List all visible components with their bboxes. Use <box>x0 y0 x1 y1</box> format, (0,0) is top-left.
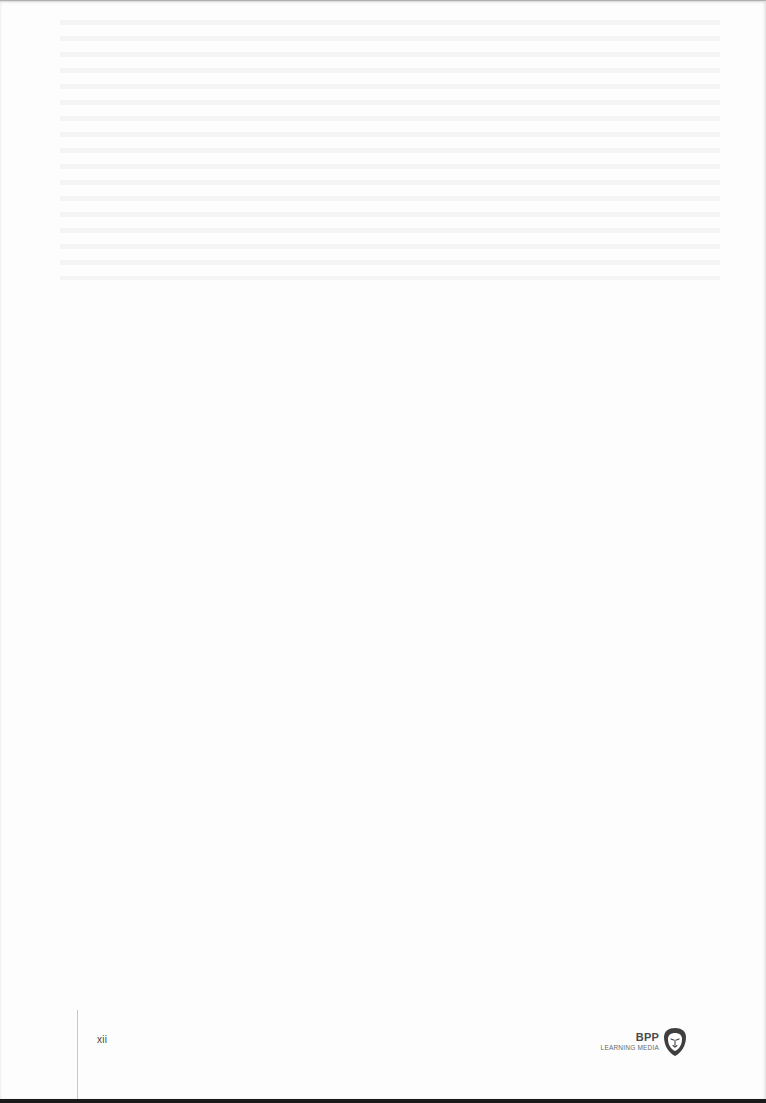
page-number: xii <box>97 1034 107 1045</box>
lion-shield-icon <box>662 1027 688 1057</box>
margin-rule <box>77 1010 78 1099</box>
publisher-logo: BPP LEARNING MEDIA <box>593 1027 693 1059</box>
scan-bottom-edge <box>0 1099 766 1103</box>
bleed-through-texture <box>60 20 720 280</box>
page-top-edge <box>0 0 766 2</box>
logo-text: BPP LEARNING MEDIA <box>601 1031 659 1052</box>
document-page: xii BPP LEARNING MEDIA <box>0 0 766 1099</box>
logo-brand: BPP <box>601 1031 659 1043</box>
logo-subtitle: LEARNING MEDIA <box>601 1043 659 1052</box>
